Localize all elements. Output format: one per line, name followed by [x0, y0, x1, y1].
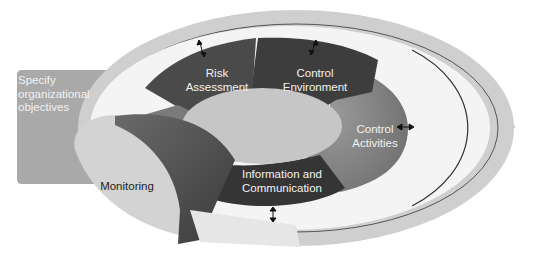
control-environment-label: Control Environment	[270, 67, 360, 94]
control-environment-line1: Control	[270, 67, 360, 81]
risk-assessment-line1: Risk	[172, 67, 262, 81]
control-environment-line2: Environment	[270, 81, 360, 95]
monitoring-line1: Monitoring	[92, 180, 162, 194]
objectives-label: Specify organizational objectives	[18, 74, 90, 115]
objectives-label-line3: objectives	[18, 101, 90, 115]
information-communication-line2: Communication	[222, 182, 342, 196]
control-activities-label: Control Activities	[340, 123, 410, 150]
information-communication-label: Information and Communication	[222, 168, 342, 195]
monitoring-label: Monitoring	[92, 180, 162, 194]
control-activities-line2: Activities	[340, 137, 410, 151]
risk-assessment-label: Risk Assessment	[172, 67, 262, 94]
risk-assessment-line2: Assessment	[172, 81, 262, 95]
diagram-graphic	[0, 0, 534, 255]
coso-diagram: Specify organizational objectives Risk A…	[0, 0, 534, 255]
control-activities-line1: Control	[340, 123, 410, 137]
objectives-label-line2: organizational	[18, 88, 90, 102]
objectives-label-line1: Specify	[18, 74, 90, 88]
information-communication-line1: Information and	[222, 168, 342, 182]
